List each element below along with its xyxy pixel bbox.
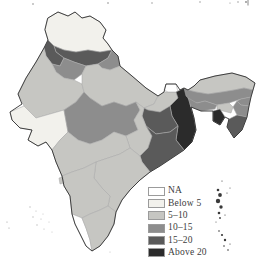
legend-label-5-10: 5–10 [168, 211, 188, 221]
legend-swatch-above-20 [148, 248, 165, 257]
legend-row-10-15: 10–15 [148, 222, 207, 234]
legend-label-below-5: Below 5 [168, 199, 201, 209]
legend-row-15-20: 15–20 [148, 234, 207, 246]
legend-swatch-10-15 [148, 224, 165, 233]
legend-swatch-5-10 [148, 211, 165, 220]
states-layer [10, 12, 255, 251]
legend-row-na: NA [148, 185, 207, 197]
andaman-nicobar-islands [216, 180, 231, 250]
map-legend: NA Below 5 5–10 10–15 15–20 Above 20 [148, 185, 207, 259]
legend-swatch-15-20 [148, 236, 165, 245]
state-tripura [213, 109, 225, 125]
lakshadweep-islands [29, 206, 52, 232]
legend-row-below-5: Below 5 [148, 197, 207, 209]
legend-row-above-20: Above 20 [148, 246, 207, 258]
legend-row-5-10: 5–10 [148, 210, 207, 222]
state-jammu-kashmir [45, 12, 112, 52]
india-choropleth-figure: NA Below 5 5–10 10–15 15–20 Above 20 [0, 0, 263, 263]
india-map-svg [0, 0, 263, 263]
legend-label-15-20: 15–20 [168, 236, 193, 246]
legend-swatch-na [148, 187, 165, 196]
legend-label-above-20: Above 20 [168, 248, 207, 258]
legend-label-10-15: 10–15 [168, 223, 193, 233]
legend-swatch-below-5 [148, 199, 165, 208]
legend-label-na: NA [168, 186, 182, 196]
